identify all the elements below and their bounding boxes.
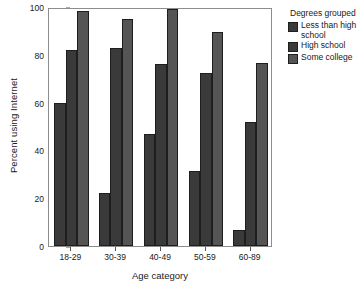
x-tick-label: 30-39: [104, 252, 126, 262]
x-tick-label: 50-59: [194, 252, 216, 262]
bar: [66, 50, 78, 246]
bar-group: [54, 9, 89, 246]
y-tick-label: 100: [30, 3, 44, 13]
bar: [245, 122, 257, 246]
bar-group: [189, 9, 224, 246]
x-tick-mark: [115, 247, 116, 251]
legend-label: Less than high school: [301, 21, 364, 40]
bar: [155, 64, 167, 246]
chart-figure: Percent using Internet 020406080100 18-2…: [0, 0, 364, 294]
plot-area: [48, 8, 272, 247]
bar: [167, 9, 179, 246]
y-tick-label: 0: [39, 242, 44, 252]
x-tick-label: 18-29: [60, 252, 82, 262]
bar: [110, 48, 122, 246]
x-axis-title: Age category: [48, 270, 272, 281]
legend-swatch: [288, 22, 298, 32]
bar-group: [144, 9, 179, 246]
legend: Degrees grouped Less than high schoolHig…: [288, 8, 364, 65]
legend-label: Some college: [301, 53, 353, 63]
bar: [77, 11, 89, 246]
bar-group: [233, 9, 268, 246]
legend-item[interactable]: High school: [288, 41, 364, 52]
bar: [200, 73, 212, 246]
bar: [99, 193, 111, 246]
bar-group: [99, 9, 134, 246]
bar: [189, 171, 201, 246]
x-tick-label: 40-49: [149, 252, 171, 262]
legend-item[interactable]: Some college: [288, 53, 364, 64]
y-axis-title-text: Percent using Internet: [9, 77, 20, 172]
legend-title: Degrees grouped: [290, 8, 364, 18]
y-tick-label: 80: [35, 51, 44, 61]
bar: [54, 103, 66, 246]
bars-container: [49, 9, 271, 246]
bar: [233, 230, 245, 246]
bar: [144, 134, 156, 246]
legend-entries: Less than high schoolHigh schoolSome col…: [288, 21, 364, 64]
y-tick-label: 40: [35, 146, 44, 156]
x-tick-mark: [250, 247, 251, 251]
y-tick-label: 20: [35, 194, 44, 204]
bar: [122, 19, 134, 246]
y-tick-label: 60: [35, 99, 44, 109]
bar: [212, 32, 224, 246]
y-axis-title: Percent using Internet: [6, 0, 22, 250]
legend-swatch: [288, 54, 298, 64]
x-tick-mark: [70, 247, 71, 251]
legend-item[interactable]: Less than high school: [288, 21, 364, 40]
legend-swatch: [288, 42, 298, 52]
x-axis-ticks: 18-2930-3940-4950-5960-89: [48, 247, 272, 269]
y-axis-ticks: 020406080100: [22, 8, 44, 247]
x-tick-mark: [160, 247, 161, 251]
legend-label: High school: [301, 41, 345, 51]
x-tick-label: 60-89: [239, 252, 261, 262]
x-tick-mark: [205, 247, 206, 251]
bar: [256, 63, 268, 246]
